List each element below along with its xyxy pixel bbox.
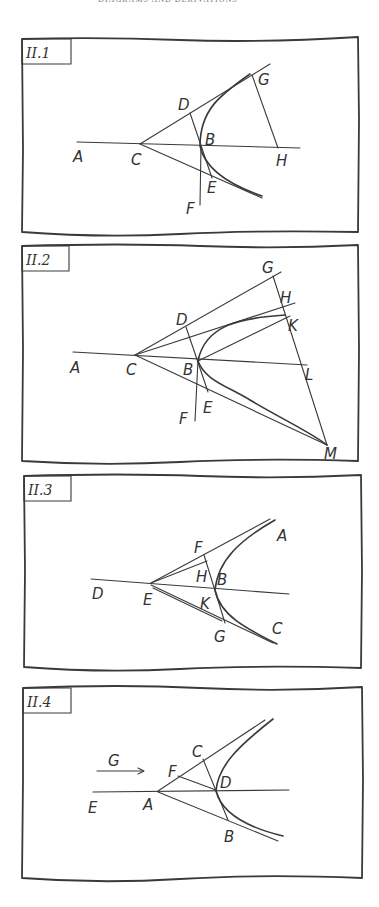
point-label-e: E <box>143 591 153 609</box>
point-label-e: E <box>203 399 213 417</box>
asymptote-upper <box>135 272 281 355</box>
panel-ii-3: II.3 A B C D E F G H K <box>24 475 362 671</box>
point-label-h: H <box>276 152 287 170</box>
point-label-d: D <box>220 774 232 792</box>
line-b-k <box>198 316 290 361</box>
asymptote-lower <box>158 792 278 841</box>
point-label-c: C <box>131 151 142 169</box>
panel-tag: II.4 <box>26 694 51 710</box>
panel-ii-4: II.4 A B C D E F G <box>22 686 363 881</box>
point-label-b: B <box>205 131 215 149</box>
panel-tag: II.2 <box>25 252 51 268</box>
diagram-canvas: II.1 A C D B E F G H II.2 <box>0 0 379 907</box>
point-label-g: G <box>108 752 120 770</box>
point-label-c: C <box>126 361 137 379</box>
point-label-e: E <box>88 799 98 817</box>
point-label-h: H <box>280 289 291 307</box>
point-label-l: L <box>305 366 313 384</box>
asymptote-upper <box>151 519 270 583</box>
point-label-h: H <box>196 568 207 586</box>
segment-b-f <box>195 360 198 421</box>
point-label-a: A <box>69 359 80 377</box>
point-label-c: C <box>272 620 283 638</box>
panel-ii-2: II.2 A C D B E F G H K L M <box>22 245 359 464</box>
asymptote-lower <box>151 585 273 643</box>
point-label-a: A <box>276 527 287 545</box>
panel-frame <box>22 686 363 881</box>
point-label-d: D <box>176 311 188 329</box>
panel-frame <box>22 245 359 464</box>
axis-line <box>93 790 289 792</box>
line-e-g <box>153 588 222 621</box>
point-label-d: D <box>178 96 190 114</box>
point-label-k: K <box>200 595 211 613</box>
point-label-d: D <box>92 585 104 603</box>
point-label-b: B <box>183 361 193 379</box>
point-label-g: G <box>214 628 226 646</box>
segment-b-f <box>200 146 201 205</box>
point-label-c: C <box>192 743 203 761</box>
point-label-g: G <box>258 71 270 89</box>
point-label-b: B <box>224 828 234 846</box>
point-label-g: G <box>262 259 274 277</box>
panel-ii-1: II.1 A C D B E F G H <box>22 37 359 236</box>
point-label-a: A <box>142 796 153 814</box>
axis-line <box>91 579 289 594</box>
point-label-f: F <box>194 539 203 557</box>
point-label-k: K <box>288 317 299 335</box>
point-label-e: E <box>207 179 217 197</box>
panel-tag: II.3 <box>27 482 53 498</box>
point-label-f: F <box>168 763 177 781</box>
point-label-a: A <box>72 148 83 166</box>
point-label-b: B <box>217 571 227 589</box>
axis-line <box>77 142 300 148</box>
line-c-h <box>135 303 295 355</box>
point-label-m: M <box>324 445 337 463</box>
panel-frame <box>24 475 362 671</box>
point-label-f: F <box>186 200 195 218</box>
point-label-f: F <box>179 410 188 428</box>
panel-tag: II.1 <box>25 45 50 61</box>
asymptote-lower <box>135 355 327 445</box>
